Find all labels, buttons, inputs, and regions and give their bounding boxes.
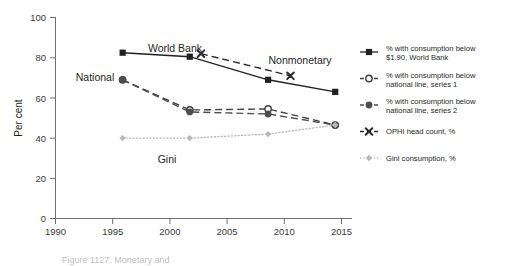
figure-caption: Figure 1127. Monetary and <box>62 255 169 265</box>
data-point <box>332 89 338 95</box>
legend-item-3[interactable]: % with consumption belownational line, s… <box>360 97 476 115</box>
annotation-nonmonetary: Nonmonetary <box>268 54 332 66</box>
data-point <box>265 77 271 83</box>
annotation-national: National <box>76 71 115 83</box>
legend-marker-icon <box>366 102 373 109</box>
y-tick-label-80: 80 <box>35 52 46 63</box>
legend-item-5[interactable]: Gini consumption, % <box>360 154 456 163</box>
x-tick-label-1995: 1995 <box>102 226 123 237</box>
y-axis-ticks <box>50 18 56 219</box>
legend-label: % with consumption below <box>386 71 476 80</box>
legend-label-line2: $1.90, World Bank <box>386 53 449 62</box>
x-tick-label-2015: 2015 <box>331 226 352 237</box>
data-point <box>119 76 126 83</box>
data-point <box>187 135 193 141</box>
data-point <box>265 131 271 137</box>
data-point <box>120 50 126 56</box>
annotation-gini: Gini <box>158 153 177 165</box>
legend-marker-icon <box>366 49 372 55</box>
y-tick-label-20: 20 <box>35 173 46 184</box>
data-point <box>186 109 193 116</box>
legend-item-4[interactable]: OPHI head count, % <box>360 127 455 136</box>
legend-marker-icon <box>366 75 372 81</box>
data-point <box>119 135 125 141</box>
legend-item-2[interactable]: % with consumption belownational line, s… <box>360 71 476 89</box>
legend-item-1[interactable]: % with consumption below$1.90, World Ban… <box>360 44 476 62</box>
series-line <box>123 125 336 138</box>
line-chart: 100 80 60 40 20 0 Per cent 1990 1995 200… <box>0 0 508 266</box>
legend-label: OPHI head count, % <box>386 127 455 136</box>
legend-marker-icon <box>366 128 373 135</box>
x-tick-label-2010: 2010 <box>274 226 295 237</box>
y-tick-label-100: 100 <box>30 12 46 23</box>
legend-label-line2: national line, series 2 <box>386 106 457 115</box>
legend-label: % with consumption below <box>386 97 476 106</box>
data-point <box>265 111 272 118</box>
legend-label-line2: national line, series 1 <box>386 80 457 89</box>
series-5 <box>119 122 338 141</box>
series-3 <box>119 76 338 128</box>
x-tick-label-2005: 2005 <box>217 226 238 237</box>
legend-label: Gini consumption, % <box>386 154 456 163</box>
chart-legend: % with consumption below$1.90, World Ban… <box>360 44 476 163</box>
x-tick-label-2000: 2000 <box>159 226 180 237</box>
x-axis-ticks <box>56 219 342 225</box>
y-axis-title: Per cent <box>13 99 24 136</box>
data-point <box>187 54 193 60</box>
annotation-world-bank: World Bank <box>148 42 203 54</box>
x-tick-label-1990: 1990 <box>45 226 66 237</box>
y-tick-label-0: 0 <box>41 213 46 224</box>
legend-label: % with consumption below <box>386 44 476 53</box>
figure-container: 100 80 60 40 20 0 Per cent 1990 1995 200… <box>0 0 508 266</box>
legend-marker-icon <box>366 155 372 161</box>
y-tick-label-60: 60 <box>35 93 46 104</box>
y-tick-label-40: 40 <box>35 133 46 144</box>
